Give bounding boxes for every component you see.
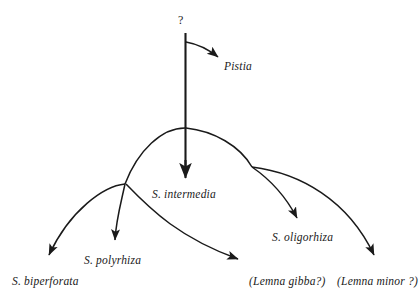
taxon-label-lemna-minor: (Lemna minor ?): [337, 276, 418, 288]
tree-branch-canvas: [0, 0, 420, 295]
root-uncertainty-label: ?: [178, 14, 183, 26]
branch-to-s-polyrhiza: [115, 184, 125, 240]
taxon-label-lemna-gibba: (Lemna gibba?): [249, 276, 326, 288]
taxon-label-s-polyrhiza: S. polyrhiza: [84, 255, 141, 267]
branch-arc-right: [186, 128, 252, 167]
branch-to-s-oligorhiza: [252, 167, 297, 218]
taxon-label-pistia: Pistia: [224, 61, 252, 73]
taxon-label-s-biperforata: S. biperforata: [12, 276, 79, 288]
branch-to-s-biperforata: [49, 184, 125, 255]
branch-arc-left: [125, 128, 185, 184]
phylogenetic-tree-figure: ? Pistia S. intermedia S. polyrhiza S. b…: [0, 0, 420, 295]
taxon-label-s-oligorhiza: S. oligorhiza: [272, 232, 333, 244]
taxon-label-s-intermedia: S. intermedia: [152, 189, 216, 201]
branch-to-pistia: [186, 42, 218, 57]
